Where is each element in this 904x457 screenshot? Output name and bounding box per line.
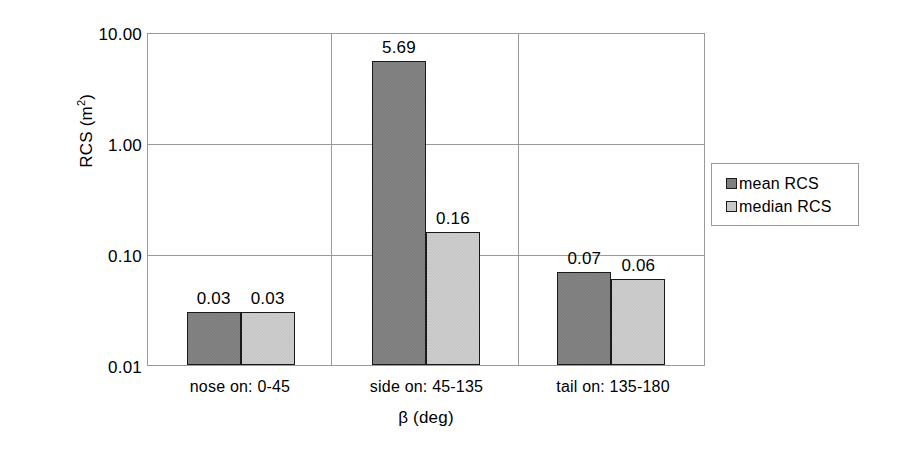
category-separator-2 bbox=[518, 34, 519, 365]
bar-mean-2 bbox=[557, 272, 611, 365]
y-tick-label-1: 1.00 bbox=[72, 137, 142, 154]
bar-median-0 bbox=[241, 312, 295, 365]
bar-value-median-1: 0.16 bbox=[416, 210, 490, 227]
y-tick-label-10: 10.00 bbox=[72, 26, 142, 43]
x-tick-label-nose-on: nose on: 0-45 bbox=[147, 378, 333, 396]
legend-item-mean-rcs[interactable]: mean RCS bbox=[726, 172, 858, 195]
bar-value-median-2: 0.06 bbox=[601, 257, 675, 274]
y-tick-label-0-10: 0.10 bbox=[72, 248, 142, 265]
legend-label-median-rcs: median RCS bbox=[739, 198, 832, 216]
category-separator-1 bbox=[331, 34, 332, 365]
plot-area: 0.035.690.070.030.160.06 bbox=[147, 33, 705, 366]
legend-item-median-rcs[interactable]: median RCS bbox=[726, 195, 858, 218]
y-axis-ticks: 10.00 1.00 0.10 0.01 bbox=[66, 0, 142, 457]
x-tick-label-side-on: side on: 45-135 bbox=[333, 378, 520, 396]
chart-figure: RCS (m2) 10.00 1.00 0.10 0.01 0.035.690.… bbox=[0, 0, 904, 457]
x-tick-label-tail-on: tail on: 135-180 bbox=[520, 378, 706, 396]
bar-median-1 bbox=[426, 232, 480, 365]
legend-swatch-mean-icon bbox=[726, 178, 737, 189]
chart-legend: mean RCS median RCS bbox=[711, 163, 859, 226]
bar-mean-0 bbox=[187, 312, 241, 365]
bar-median-2 bbox=[611, 279, 665, 365]
legend-swatch-median-icon bbox=[726, 201, 737, 212]
x-axis-title: β (deg) bbox=[147, 408, 705, 428]
legend-label-mean-rcs: mean RCS bbox=[739, 175, 819, 193]
y-tick-label-0-01: 0.01 bbox=[72, 359, 142, 376]
gridline-1 bbox=[148, 144, 704, 145]
bar-value-mean-1: 5.69 bbox=[362, 39, 436, 56]
bar-value-median-0: 0.03 bbox=[231, 290, 305, 307]
